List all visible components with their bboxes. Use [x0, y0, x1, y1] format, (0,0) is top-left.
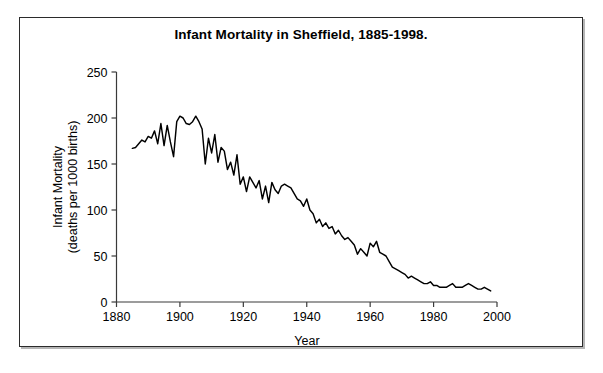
y-tick-label: 100: [87, 204, 108, 218]
y-tick-label: 150: [87, 158, 108, 172]
x-tick-label: 2000: [483, 310, 511, 324]
y-tick-label: 50: [94, 250, 108, 264]
x-tick-label: 1960: [356, 310, 384, 324]
x-axis-ticks: 1880190019201940196019802000: [103, 302, 511, 324]
x-tick-label: 1900: [166, 310, 194, 324]
y-axis-title-line-1: Infant Mortality: [51, 145, 65, 228]
y-axis-title-line-2: (deaths per 1000 births): [66, 121, 80, 254]
y-tick-label: 250: [87, 66, 108, 80]
data-series-line: [132, 116, 490, 291]
y-tick-label: 0: [101, 296, 108, 310]
x-tick-label: 1920: [229, 310, 257, 324]
y-axis-ticks: 050100150200250: [87, 66, 117, 310]
x-tick-label: 1980: [420, 310, 448, 324]
x-tick-label: 1940: [293, 310, 321, 324]
y-tick-label: 200: [87, 112, 108, 126]
x-tick-label: 1880: [103, 310, 131, 324]
x-axis-title: Year: [294, 334, 319, 348]
chart-plot-area: 050100150200250 188019001920194019601980…: [0, 0, 603, 373]
